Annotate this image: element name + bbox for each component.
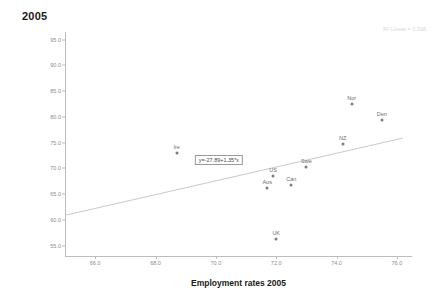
y-tick-label: 90.0 — [50, 62, 61, 68]
y-tick-label: 60.0 — [50, 217, 61, 223]
y-tick-mark — [62, 91, 65, 92]
x-tick-label: 72.0 — [271, 260, 282, 266]
x-tick-label: 76.0 — [392, 260, 403, 266]
x-tick-label: 66.0 — [90, 260, 101, 266]
data-point — [350, 103, 353, 106]
y-tick-label: 65.0 — [50, 191, 61, 197]
y-tick-label: 55.0 — [50, 243, 61, 249]
x-tick-mark — [216, 256, 217, 259]
x-tick-label: 68.0 — [150, 260, 161, 266]
data-point-label: Swe — [301, 158, 312, 164]
plot-area: 55.060.065.070.075.080.085.090.095.0 66.… — [65, 32, 412, 256]
equation-annotation: y=-27.89+1.35*x — [195, 155, 243, 165]
y-tick-label: 70.0 — [50, 165, 61, 171]
y-tick-mark — [62, 116, 65, 117]
data-point-label: Aus — [262, 179, 271, 185]
data-point-label: US — [269, 167, 277, 173]
y-tick-mark — [62, 142, 65, 143]
scatter-chart: 2005 R² Linear = 0.208 Non-financial emp… — [0, 0, 432, 300]
data-point — [266, 187, 269, 190]
page-title: 2005 — [22, 10, 47, 22]
data-point-label: Can — [286, 176, 296, 182]
x-tick-mark — [397, 256, 398, 259]
data-point — [341, 142, 344, 145]
y-tick-mark — [62, 245, 65, 246]
x-tick-mark — [156, 256, 157, 259]
data-point-label: Ire — [173, 144, 179, 150]
y-tick-mark — [62, 194, 65, 195]
data-point — [290, 184, 293, 187]
y-tick-label: 80.0 — [50, 114, 61, 120]
regression-line — [65, 32, 412, 256]
x-tick-mark — [276, 256, 277, 259]
x-axis-title: Employment rates 2005 — [65, 278, 412, 288]
y-tick-mark — [62, 39, 65, 40]
data-point — [272, 174, 275, 177]
y-tick-label: 85.0 — [50, 88, 61, 94]
data-point-label: UK — [272, 230, 280, 236]
data-point — [305, 166, 308, 169]
y-tick-label: 75.0 — [50, 140, 61, 146]
x-tick-mark — [337, 256, 338, 259]
x-axis-line — [65, 256, 412, 257]
data-point-label: Den — [377, 111, 387, 117]
x-tick-label: 74.0 — [331, 260, 342, 266]
y-tick-mark — [62, 219, 65, 220]
y-tick-mark — [62, 65, 65, 66]
x-tick-label: 70.0 — [211, 260, 222, 266]
data-point-label: Nor — [347, 95, 356, 101]
data-point — [275, 238, 278, 241]
y-tick-label: 95.0 — [50, 37, 61, 43]
data-point-label: NZ — [339, 135, 346, 141]
data-point — [380, 118, 383, 121]
y-tick-mark — [62, 168, 65, 169]
x-tick-mark — [95, 256, 96, 259]
data-point — [175, 152, 178, 155]
